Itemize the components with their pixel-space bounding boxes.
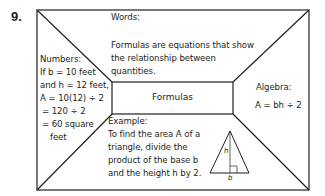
numbers-line: = 120 ÷ 2 <box>40 105 109 118</box>
right-angle-mark <box>230 166 237 173</box>
words-body: Formulas are equations that show the rel… <box>111 39 254 78</box>
algebra-formula: A = bh ÷ 2 <box>255 99 302 112</box>
numbers-line: A = 10(12) ÷ 2 <box>40 92 109 105</box>
example-section: Example: To find the area A of a triangl… <box>108 115 201 180</box>
numbers-line: and h = 12 feet, <box>40 79 109 92</box>
triangle-figure <box>210 131 249 173</box>
triangle-base-label: b <box>228 174 232 182</box>
example-line: and the height h by 2. <box>108 167 201 180</box>
example-heading: Example: <box>108 115 201 128</box>
words-line: the relationship between <box>111 52 254 65</box>
problem-number: 9. <box>11 9 22 24</box>
numbers-line: feet <box>40 131 109 144</box>
example-line: product of the base b <box>108 154 201 167</box>
words-heading: Words: <box>111 11 140 24</box>
numbers-section: Numbers: If b = 10 feet and h = 12 feet,… <box>40 53 109 144</box>
algebra-heading: Algebra: <box>256 81 291 94</box>
numbers-heading: Numbers: <box>40 53 109 66</box>
diagonal-bottom-right <box>233 114 309 190</box>
example-line: triangle, divide the <box>108 141 201 154</box>
triangle-height-label: h <box>224 147 228 155</box>
numbers-line: If b = 10 feet <box>40 66 109 79</box>
center-label: Formulas <box>112 92 233 102</box>
numbers-line: = 60 square <box>40 118 109 131</box>
example-line: To find the area A of a <box>108 128 201 141</box>
words-line: quantities. <box>111 65 254 78</box>
triangle-icon <box>210 131 249 173</box>
words-line: Formulas are equations that show <box>111 39 254 52</box>
